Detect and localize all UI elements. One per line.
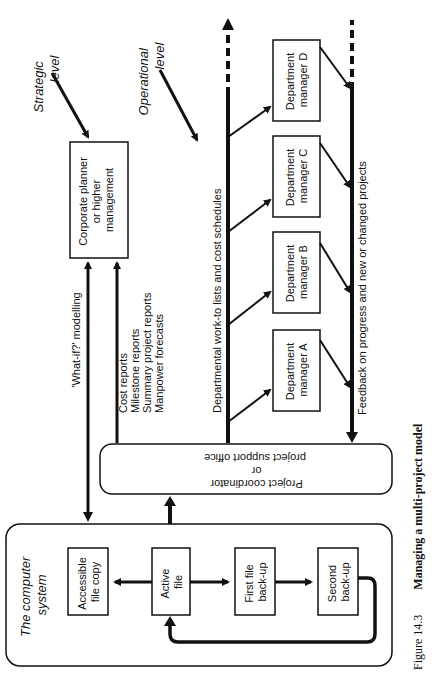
operational-arrow — [160, 70, 197, 140]
first-backup-box — [235, 548, 275, 615]
department-manager-a: Department manager A — [228, 330, 350, 422]
operational-level-label: Operational level — [136, 42, 167, 116]
department-manager-c: Department manager C — [228, 136, 350, 232]
worklists-arrowhead — [222, 18, 234, 30]
first-backup-label: First file back-up — [243, 561, 268, 603]
active-file-box — [152, 548, 190, 615]
svg-text:Operational level: Operational level — [136, 42, 167, 116]
strategic-arrow — [52, 73, 88, 137]
second-backup-label: Second back-up — [326, 562, 351, 602]
feedback-label: Feedback on progress and new or changed … — [356, 161, 368, 415]
department-manager-b: Department manager B — [228, 232, 350, 325]
second-backup-box — [318, 548, 358, 615]
svg-text:Department manager B: Department manager B — [284, 242, 309, 303]
what-if-label: 'What-if?' modelling — [70, 292, 82, 387]
coordinator-arrowhead-up — [164, 496, 176, 506]
multi-project-diagram: Strategic level Operational level Corpor… — [0, 0, 432, 678]
department-manager-d: Department manager D — [228, 40, 350, 137]
worklists-label: Departmental work-to lists and cost sche… — [211, 188, 223, 413]
accessible-file-copy-label: Accessible file copy — [76, 554, 101, 610]
reports-label: Cost reports Milestone reports Summary p… — [117, 290, 165, 414]
svg-text:Department manager D: Department manager D — [284, 50, 309, 111]
figure-caption: Figure 14.3 Managing a multi-project mod… — [411, 423, 425, 670]
svg-text:Department manager C: Department manager C — [284, 146, 309, 207]
what-if-arrowhead-down — [83, 512, 93, 522]
svg-text:Department manager A: Department manager A — [284, 340, 309, 401]
feedback-arrowhead — [346, 432, 358, 443]
accessible-file-copy-box — [68, 548, 108, 615]
